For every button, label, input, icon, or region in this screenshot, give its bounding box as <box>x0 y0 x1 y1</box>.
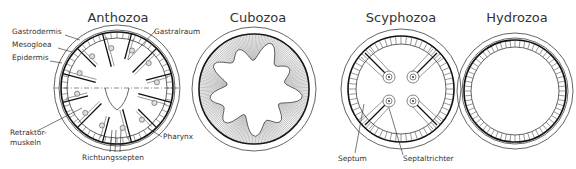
label-mesogloea: Mesogloea <box>12 40 52 49</box>
cnidaria-cross-section-diagram: Anthozoa Gastrodermis Mesogloea Epidermi… <box>0 0 576 169</box>
label-gastrodermis: Gastrodermis <box>12 27 62 36</box>
label-retraktor-line2: muskeln <box>10 138 41 147</box>
cubozoa-title: Cubozoa <box>230 10 286 25</box>
label-epidermis: Epidermis <box>12 53 49 62</box>
leader-gastrodermis <box>65 35 80 40</box>
scyphozoa-panel: Scyphozoa Septum Septaltrichter <box>338 10 461 163</box>
leader-richtungssepten <box>110 130 121 152</box>
hydrozoa-epidermis-inner <box>462 38 568 144</box>
hydrozoa-panel: Hydrozoa <box>457 10 573 149</box>
hydrozoa-outer-wall <box>457 33 573 149</box>
leader-mesogloea <box>58 48 72 52</box>
anthozoa-title: Anthozoa <box>87 10 148 25</box>
anthozoa-panel: Anthozoa Gastrodermis Mesogloea Epidermi… <box>10 10 200 162</box>
leader-retraktor <box>37 108 82 131</box>
label-retraktor-line1: Retraktor- <box>10 128 47 137</box>
cubozoa-panel: Cubozoa <box>192 10 316 151</box>
leader-septum <box>355 104 364 153</box>
scyphozoa-septa <box>361 49 441 129</box>
hydrozoa-gastrodermis-cells <box>464 40 566 142</box>
label-richtungssepten: Richtungssepten <box>82 153 144 162</box>
scyphozoa-mesogloea <box>348 36 454 142</box>
scyphozoa-title: Scyphozoa <box>366 10 436 25</box>
hydrozoa-title: Hydrozoa <box>486 10 547 25</box>
label-pharynx: Pharynx <box>163 132 194 141</box>
label-gastralraum: Gastralraum <box>154 27 200 36</box>
label-septaltrichter: Septaltrichter <box>403 154 455 163</box>
label-septum: Septum <box>338 154 367 163</box>
hydrozoa-gastrodermis <box>471 47 559 135</box>
anthozoa-pharynx <box>105 88 129 110</box>
